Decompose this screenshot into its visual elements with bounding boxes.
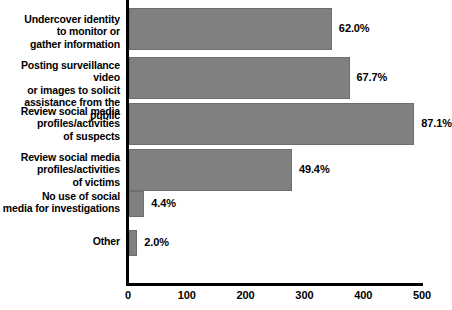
bar-value-label: 4.4% [151, 197, 176, 209]
bar [129, 8, 332, 50]
x-tick-label: 500 [413, 289, 431, 301]
category-label: Review social media profiles/activities … [21, 105, 120, 142]
bar-value-label: 87.1% [421, 117, 452, 129]
category-label: No use of social media for investigation… [3, 190, 120, 215]
x-tick-label: 0 [125, 289, 131, 301]
category-label: Other [93, 235, 120, 247]
bar-value-label: 62.0% [339, 22, 370, 34]
bar-value-label: 2.0% [144, 236, 169, 248]
x-tick-label: 200 [237, 289, 255, 301]
bar [129, 191, 144, 217]
x-tick-label: 400 [354, 289, 372, 301]
x-tick-label: 300 [295, 289, 313, 301]
x-tick-label: 100 [178, 289, 196, 301]
category-label: Review social media profiles/activities … [21, 151, 120, 188]
bar [129, 103, 414, 145]
bar-value-label: 67.7% [357, 71, 388, 83]
bar [129, 230, 137, 256]
x-axis-line [126, 283, 423, 286]
bar-value-label: 49.4% [299, 163, 330, 175]
bar [129, 149, 292, 191]
bar [129, 57, 350, 99]
category-label: Undercover identity to monitor or gather… [24, 13, 120, 50]
